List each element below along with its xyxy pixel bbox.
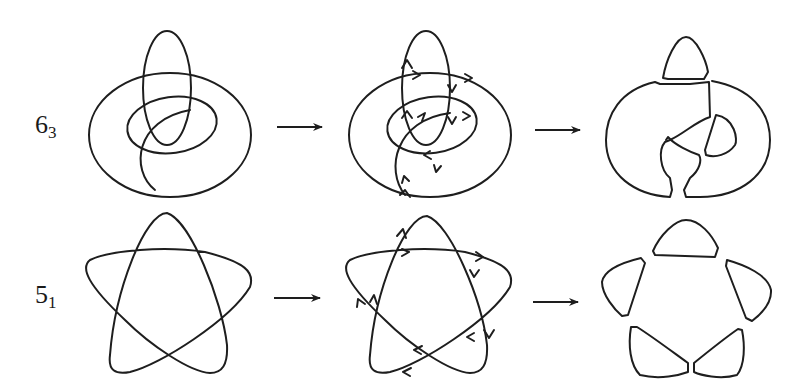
knot-5-1-diagram — [86, 213, 251, 373]
knot-diagram-canvas — [0, 0, 808, 387]
knot-6-3-seifert-regions — [606, 37, 770, 197]
knot-6-3-oriented-diagram — [349, 31, 511, 197]
knot-5-1-seifert-regions — [602, 220, 771, 377]
knot-6-3-diagram — [89, 31, 251, 197]
knot-5-1-oriented-diagram — [346, 216, 511, 376]
